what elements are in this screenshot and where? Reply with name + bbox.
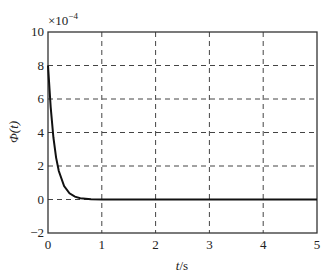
y-multiplier: ×10−4 — [48, 11, 78, 28]
y-tick-label: 10 — [31, 24, 44, 39]
x-axis-ticks: 012345 — [45, 237, 321, 252]
chart: −20246810 012345 ×10−4 Φ(t) t/s — [0, 0, 332, 276]
x-tick-label: 3 — [206, 237, 213, 252]
x-tick-label: 1 — [99, 237, 106, 252]
y-axis-ticks: −20246810 — [30, 24, 44, 240]
x-tick-label: 0 — [45, 237, 52, 252]
y-tick-label: 4 — [38, 125, 45, 140]
y-tick-label: 2 — [38, 158, 45, 173]
y-axis-label: Φ(t) — [6, 121, 21, 143]
x-tick-label: 5 — [314, 237, 321, 252]
x-tick-label: 2 — [152, 237, 159, 252]
y-tick-label: −2 — [30, 225, 44, 240]
y-tick-label: 6 — [38, 91, 45, 106]
y-tick-label: 0 — [38, 192, 45, 207]
x-axis-label: t/s — [176, 258, 188, 273]
x-tick-label: 4 — [260, 237, 267, 252]
grid-lines — [48, 32, 317, 233]
y-tick-label: 8 — [38, 58, 45, 73]
